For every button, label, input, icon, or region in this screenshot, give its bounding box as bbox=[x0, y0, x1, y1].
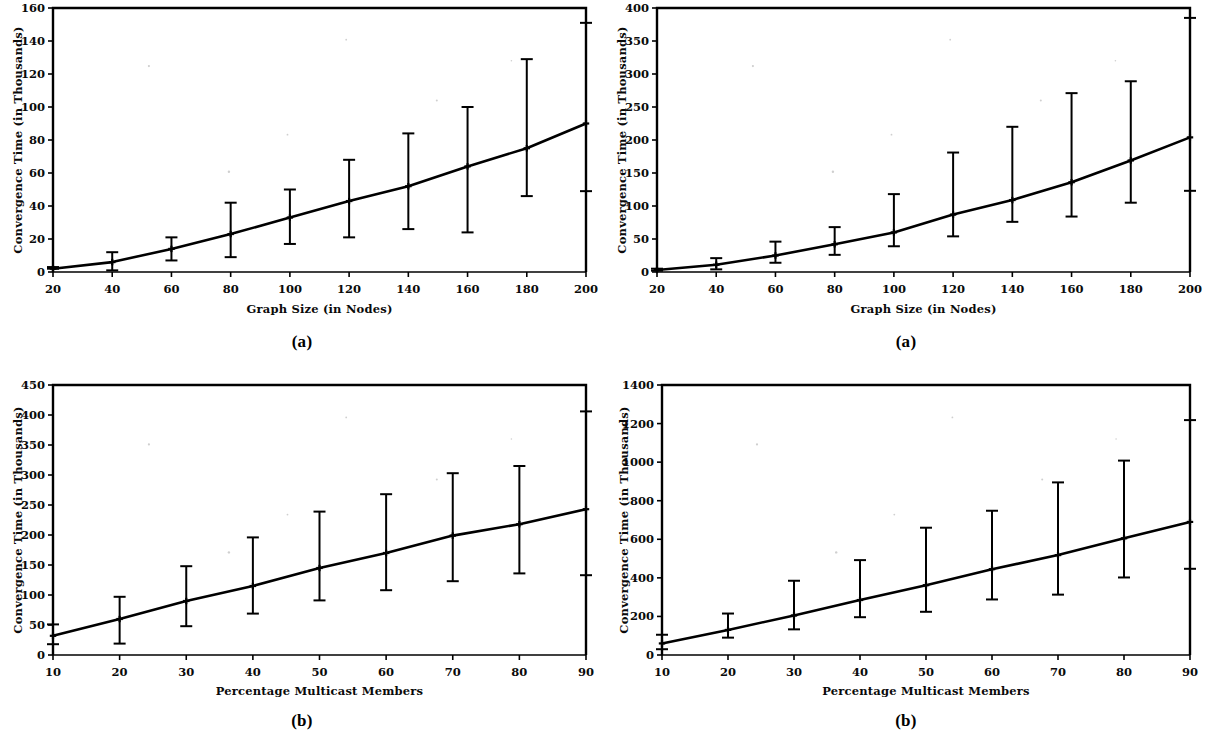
data-point-marker bbox=[891, 229, 897, 235]
data-point-marker bbox=[725, 627, 731, 633]
x-axis-tick-label: 70 bbox=[1050, 665, 1066, 679]
x-axis-tick-label: 90 bbox=[578, 665, 594, 679]
error-bar bbox=[1118, 461, 1130, 578]
error-bar bbox=[1006, 127, 1018, 222]
scan-speck bbox=[1040, 99, 1042, 101]
error-bar bbox=[521, 59, 533, 196]
y-axis-tick-label: 400 bbox=[625, 1, 649, 15]
data-point-marker bbox=[791, 612, 797, 618]
error-bar bbox=[447, 473, 459, 581]
chart-svg-bottom-right: 0200400600800100012001400102030405060708… bbox=[604, 375, 1208, 750]
y-axis-label: Convergence Time (in Thousands) bbox=[615, 26, 629, 253]
data-point-marker bbox=[450, 532, 456, 538]
scan-speck bbox=[228, 171, 230, 173]
chart-root: 0204060801001201401602040608010012014016… bbox=[11, 1, 598, 316]
data-point-marker bbox=[383, 550, 389, 556]
x-axis-tick-label: 180 bbox=[1119, 282, 1143, 296]
plot-frame bbox=[662, 385, 1190, 655]
x-axis-tick-label: 10 bbox=[654, 665, 670, 679]
x-axis-tick-label: 40 bbox=[245, 665, 261, 679]
scan-speck bbox=[287, 514, 289, 516]
x-axis-tick-label: 200 bbox=[574, 282, 598, 296]
scan-speck bbox=[832, 171, 834, 173]
scan-speck bbox=[1115, 438, 1117, 440]
x-axis-tick-label: 40 bbox=[852, 665, 868, 679]
data-point-marker bbox=[1055, 552, 1061, 558]
error-bar bbox=[580, 23, 592, 191]
scan-speck bbox=[436, 99, 438, 101]
data-series bbox=[47, 411, 592, 644]
scan-speck bbox=[345, 417, 347, 419]
x-axis-tick-label: 180 bbox=[515, 282, 539, 296]
x-axis-tick-label: 70 bbox=[445, 665, 461, 679]
y-axis-tick-label: 800 bbox=[630, 494, 654, 508]
panel-caption-b-right: (b) bbox=[604, 711, 1208, 731]
data-point-marker bbox=[831, 241, 837, 247]
x-axis-tick-label: 20 bbox=[45, 282, 61, 296]
x-axis-tick-label: 40 bbox=[708, 282, 724, 296]
data-point-marker bbox=[1121, 535, 1127, 541]
error-bar bbox=[225, 203, 237, 257]
scan-speck bbox=[752, 65, 754, 67]
data-point-marker bbox=[1187, 519, 1193, 525]
x-axis-tick-label: 80 bbox=[223, 282, 239, 296]
data-point-marker bbox=[772, 252, 778, 258]
x-axis-tick-label: 120 bbox=[941, 282, 965, 296]
scan-speck bbox=[756, 443, 758, 445]
y-axis-tick-label: 200 bbox=[630, 609, 654, 623]
x-axis-tick-label: 80 bbox=[827, 282, 843, 296]
data-series bbox=[651, 18, 1196, 273]
chart-root: 0200400600800100012001400102030405060708… bbox=[617, 378, 1198, 698]
series-line bbox=[657, 137, 1190, 270]
scan-speck bbox=[511, 438, 513, 440]
error-bar bbox=[769, 242, 781, 263]
data-point-marker bbox=[857, 597, 863, 603]
x-axis-tick-label: 60 bbox=[767, 282, 783, 296]
x-axis-tick-label: 140 bbox=[1000, 282, 1024, 296]
data-series bbox=[47, 23, 592, 272]
x-axis-tick-label: 30 bbox=[786, 665, 802, 679]
x-axis-tick-label: 100 bbox=[278, 282, 302, 296]
y-axis-tick-label: 20 bbox=[29, 232, 45, 246]
x-axis-tick-label: 160 bbox=[456, 282, 480, 296]
panel-caption-a-left: (a) bbox=[0, 332, 604, 352]
scan-speck bbox=[148, 65, 150, 67]
scan-speck bbox=[1115, 60, 1117, 62]
y-axis-label: Convergence Time (in Thousands) bbox=[617, 406, 631, 633]
scan-speck bbox=[287, 134, 289, 136]
data-point-marker bbox=[287, 214, 293, 220]
data-point-marker bbox=[183, 598, 189, 604]
x-axis-tick-label: 120 bbox=[337, 282, 361, 296]
error-bar bbox=[380, 494, 392, 590]
data-point-marker bbox=[713, 262, 719, 268]
x-axis-tick-label: 80 bbox=[1116, 665, 1132, 679]
chart-panel-bottom-left: 0501001502002503003504004501020304050607… bbox=[0, 375, 604, 750]
scan-speck bbox=[952, 417, 954, 419]
error-bar bbox=[788, 581, 800, 630]
error-bar bbox=[314, 512, 326, 601]
y-axis-tick-label: 0 bbox=[37, 265, 45, 279]
data-point-marker bbox=[516, 521, 522, 527]
error-bar bbox=[920, 528, 932, 612]
data-point-marker bbox=[659, 640, 665, 646]
chart-root: 0501001502002503003504004501020304050607… bbox=[11, 378, 594, 698]
y-axis-label: Convergence Time (in Thousands) bbox=[11, 26, 25, 253]
plot-frame bbox=[53, 8, 586, 272]
error-bar bbox=[888, 194, 900, 246]
x-axis-tick-label: 20 bbox=[720, 665, 736, 679]
y-axis-tick-label: 600 bbox=[630, 532, 654, 546]
data-point-marker bbox=[923, 582, 929, 588]
y-axis-tick-label: 50 bbox=[29, 618, 45, 632]
error-bar bbox=[462, 107, 474, 232]
chart-svg-top-right: 0501001502002503003504002040608010012014… bbox=[604, 0, 1208, 375]
chart-svg-bottom-left: 0501001502002503003504004501020304050607… bbox=[0, 375, 604, 750]
data-point-marker bbox=[950, 211, 956, 217]
x-axis-label: Graph Size (in Nodes) bbox=[246, 302, 392, 316]
x-axis-tick-label: 20 bbox=[112, 665, 128, 679]
scan-speck bbox=[835, 551, 837, 553]
error-bar bbox=[829, 227, 841, 255]
x-axis-tick-label: 60 bbox=[378, 665, 394, 679]
scan-speck bbox=[1041, 479, 1043, 481]
data-point-marker bbox=[464, 163, 470, 169]
y-axis-tick-label: 0 bbox=[641, 265, 649, 279]
